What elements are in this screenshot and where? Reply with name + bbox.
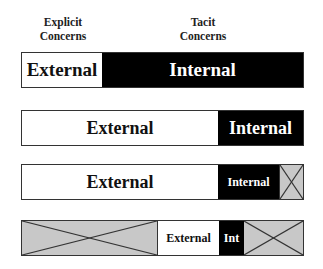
- internal-segment: Internal: [218, 165, 279, 199]
- concern-bar-4: External Int: [21, 220, 304, 256]
- explicit-header-line2: Concerns: [22, 29, 104, 43]
- internal-label: Internal: [229, 118, 292, 139]
- external-label: External: [87, 118, 154, 139]
- not-applicable-segment: [244, 221, 303, 255]
- cross-icon: [280, 165, 303, 199]
- external-segment: External: [22, 165, 218, 199]
- internal-label: Internal: [228, 175, 270, 190]
- explicit-concerns-header: Explicit Concerns: [22, 15, 104, 43]
- external-segment: External: [157, 221, 219, 255]
- internal-label: Int: [224, 231, 239, 246]
- external-segment: External: [22, 111, 218, 145]
- not-applicable-segment: [279, 165, 303, 199]
- concern-bar-2: External Internal: [21, 110, 304, 146]
- external-label: External: [166, 231, 211, 246]
- internal-label: Internal: [169, 59, 236, 81]
- explicit-header-line1: Explicit: [22, 15, 104, 29]
- tacit-header-line2: Concerns: [162, 29, 244, 43]
- internal-segment: Int: [219, 221, 244, 255]
- cross-icon: [22, 221, 157, 255]
- concern-bar-3: External Internal: [21, 164, 304, 200]
- external-label: External: [27, 59, 98, 81]
- not-applicable-segment: [22, 221, 157, 255]
- external-label: External: [87, 172, 154, 193]
- tacit-concerns-header: Tacit Concerns: [162, 15, 244, 43]
- external-segment: External: [22, 53, 102, 87]
- concern-bar-1: External Internal: [21, 52, 304, 88]
- cross-icon: [244, 221, 303, 255]
- internal-segment: Internal: [218, 111, 303, 145]
- internal-segment: Internal: [102, 53, 303, 87]
- tacit-header-line1: Tacit: [162, 15, 244, 29]
